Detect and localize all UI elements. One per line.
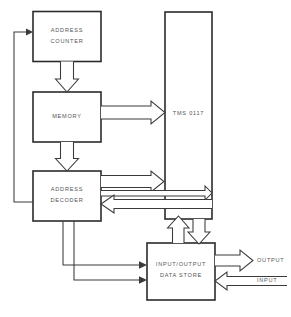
line-address-decoder-to-address-counter: [14, 29, 33, 202]
bus-tms-to-io-data-store: [188, 219, 210, 244]
block-memory-label-line1: MEMORY: [52, 113, 82, 119]
block-tms-0117-label: TMS 0117: [173, 110, 204, 116]
block-address-decoder: ADDRESS DECODER: [33, 171, 101, 221]
bus-address-decoder-to-tms-upper: [101, 171, 164, 192]
bus-memory-to-tms: [101, 101, 165, 124]
bus-io-data-store-to-tms: [168, 216, 190, 243]
block-address-decoder-label-line1: ADDRESS: [51, 186, 83, 192]
line-address-decoder-to-io-data-store-upper: [63, 221, 147, 269]
block-io-data-store: INPUT/OUTPUT DATA STORE: [147, 243, 215, 300]
block-address-counter: ADDRESS COUNTER: [33, 12, 101, 62]
block-address-counter-label-line1: ADDRESS: [51, 27, 83, 33]
bus-io-data-store-to-output: [215, 250, 253, 271]
line-address-decoder-to-io-data-store-lower: [74, 221, 147, 284]
block-memory: MEMORY: [33, 92, 101, 142]
bus-memory-to-address-decoder: [56, 142, 79, 171]
bus-address-counter-to-memory: [56, 62, 79, 93]
external-label-input: INPUT: [257, 277, 278, 283]
external-label-output: OUTPUT: [257, 257, 285, 263]
block-address-counter-label-line2: COUNTER: [51, 38, 84, 44]
block-diagram-canvas: ADDRESS COUNTER MEMORY ADDRESS DECODER T…: [0, 0, 291, 317]
block-diagram-page: ADDRESS COUNTER MEMORY ADDRESS DECODER T…: [0, 0, 291, 317]
block-address-decoder-label-line2: DECODER: [50, 197, 83, 203]
block-io-data-store-label-line1: INPUT/OUTPUT: [156, 261, 206, 267]
block-io-data-store-label-line2: DATA STORE: [160, 272, 202, 278]
